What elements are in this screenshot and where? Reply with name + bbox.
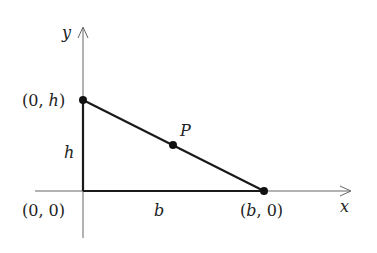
point-right	[260, 187, 268, 195]
top-point-label: (0, h)	[22, 91, 65, 110]
y-axis-label: y	[61, 23, 72, 42]
origin-label: (0, 0)	[22, 201, 65, 220]
base-label: b	[154, 201, 164, 220]
x-axis-label: x	[340, 197, 349, 216]
triangle-diagram: y x (0, h) (0, 0) (b, 0) P h b	[0, 0, 377, 253]
p-label: P	[179, 121, 191, 140]
height-label: h	[64, 143, 74, 162]
right-point-label: (b, 0)	[240, 201, 283, 220]
point-top	[79, 96, 87, 104]
point-p	[169, 141, 177, 149]
